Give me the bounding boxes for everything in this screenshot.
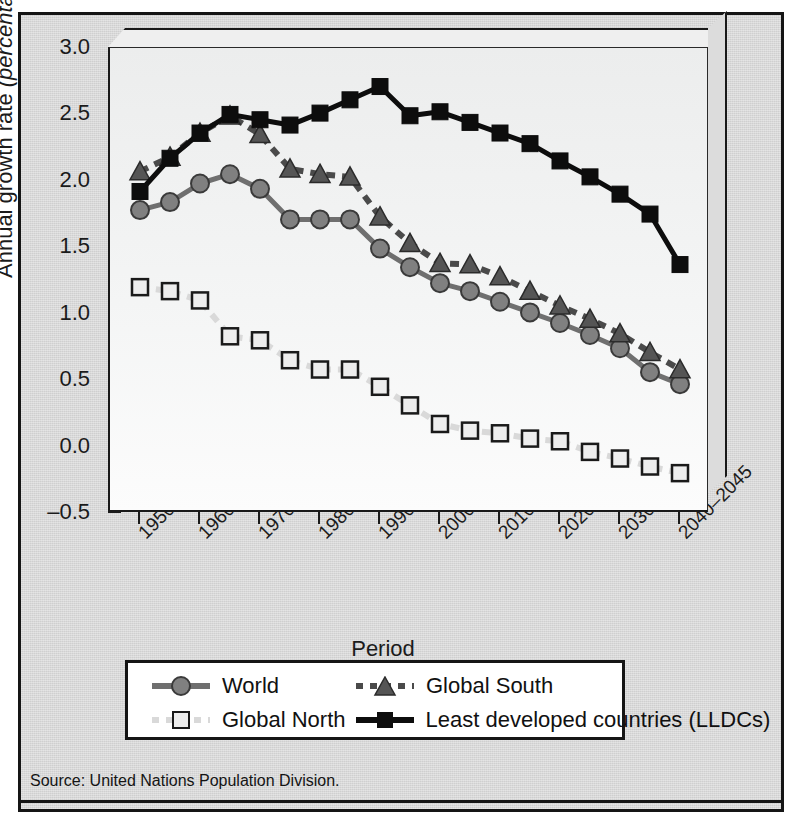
- series-marker: [432, 416, 448, 432]
- series-marker: [282, 117, 298, 133]
- series-marker: [281, 210, 299, 228]
- legend-item-global-south[interactable]: Global South: [346, 673, 622, 699]
- plot-box-top-bevel: [108, 28, 725, 47]
- series-marker: [402, 108, 418, 124]
- series-marker: [642, 459, 658, 475]
- series-world: [131, 165, 689, 393]
- legend-label-lldcs: Least developed countries (LLDCs): [416, 707, 771, 733]
- series-marker: [552, 433, 568, 449]
- legend-swatch-global-south: [354, 676, 416, 696]
- x-axis-label: Period: [0, 636, 766, 662]
- series-marker: [672, 257, 688, 273]
- y-tick-label: 2.5: [28, 100, 90, 126]
- y-tick-label: 1.0: [28, 300, 90, 326]
- series-marker: [430, 253, 450, 271]
- legend-row-2: Global North Least developed countries (…: [128, 703, 622, 737]
- series-marker: [311, 210, 329, 228]
- legend-label-global-south: Global South: [416, 673, 553, 699]
- series-line: [140, 174, 680, 384]
- series-marker: [191, 175, 209, 193]
- series-marker: [342, 362, 358, 378]
- series-marker: [192, 292, 208, 308]
- series-marker: [582, 444, 598, 460]
- series-marker: [432, 104, 448, 120]
- series-marker: [462, 423, 478, 439]
- series-marker: [551, 314, 569, 332]
- series-marker: [312, 362, 328, 378]
- series-marker: [312, 105, 328, 121]
- plot-area: [108, 47, 708, 512]
- figure-container: Annual growth rate (percentage) 3.02.52.…: [0, 0, 803, 833]
- series-marker: [521, 303, 539, 321]
- series-marker: [221, 165, 239, 183]
- series-marker: [641, 363, 659, 381]
- legend-label-world: World: [212, 673, 279, 699]
- legend-item-lldcs[interactable]: Least developed countries (LLDCs): [346, 707, 771, 733]
- series-marker: [131, 201, 149, 219]
- series-marker: [161, 193, 179, 211]
- series-marker: [252, 112, 268, 128]
- series-marker: [341, 210, 359, 228]
- chart-legend: World Global South: [125, 660, 625, 740]
- y-tick-label: 2.0: [28, 167, 90, 193]
- series-marker: [492, 425, 508, 441]
- series-marker: [520, 281, 540, 299]
- series-marker: [612, 451, 628, 467]
- y-tick-label: 0.5: [28, 366, 90, 392]
- series-marker: [491, 293, 509, 311]
- y-axis-label: Annual growth rate (percentage): [0, 0, 18, 278]
- series-marker: [402, 397, 418, 413]
- y-tick-label: –0.5: [28, 499, 90, 525]
- series-marker: [490, 267, 510, 285]
- series-marker: [522, 136, 538, 152]
- series-marker: [192, 125, 208, 141]
- series-marker: [612, 186, 628, 202]
- series-marker: [162, 150, 178, 166]
- source-divider: [18, 800, 784, 803]
- series-marker: [132, 279, 148, 295]
- legend-item-global-north[interactable]: Global North: [128, 707, 346, 733]
- series-marker: [342, 92, 358, 108]
- legend-swatch-lldcs: [354, 710, 416, 730]
- series-marker: [252, 332, 268, 348]
- series-marker: [672, 465, 688, 481]
- series-marker: [581, 326, 599, 344]
- series-marker: [222, 106, 238, 122]
- y-axis-label-text: Annual growth rate: [0, 93, 17, 278]
- series-marker: [461, 282, 479, 300]
- series-marker: [431, 274, 449, 292]
- legend-row-1: World Global South: [128, 669, 622, 703]
- series-marker: [522, 431, 538, 447]
- series-marker: [460, 255, 480, 273]
- series-marker: [372, 379, 388, 395]
- series-marker: [642, 206, 658, 222]
- series-marker: [370, 207, 390, 225]
- series-plot: [110, 48, 710, 513]
- series-marker: [401, 258, 419, 276]
- series-marker: [582, 169, 598, 185]
- legend-item-world[interactable]: World: [128, 673, 346, 699]
- series-marker: [282, 352, 298, 368]
- series-marker: [162, 283, 178, 299]
- series-global-south: [130, 106, 690, 378]
- series-marker: [552, 153, 568, 169]
- series-marker: [132, 183, 148, 199]
- y-tick-label: 1.5: [28, 233, 90, 259]
- y-tick-label: 3.0: [28, 34, 90, 60]
- series-marker: [462, 114, 478, 130]
- plot-box: [108, 47, 708, 512]
- y-tick-label: 0.0: [28, 433, 90, 459]
- source-note: Source: United Nations Population Divisi…: [30, 772, 340, 790]
- legend-swatch-global-north: [150, 710, 212, 730]
- series-marker: [371, 240, 389, 258]
- series-marker: [372, 79, 388, 95]
- legend-label-global-north: Global North: [212, 707, 346, 733]
- y-axis-label-unit: (percentage): [0, 0, 17, 87]
- series-marker: [222, 328, 238, 344]
- series-marker: [251, 180, 269, 198]
- plot-box-right-bevel: [708, 11, 727, 493]
- series-global-north: [132, 279, 688, 481]
- series-marker: [492, 125, 508, 141]
- legend-swatch-world: [150, 676, 212, 696]
